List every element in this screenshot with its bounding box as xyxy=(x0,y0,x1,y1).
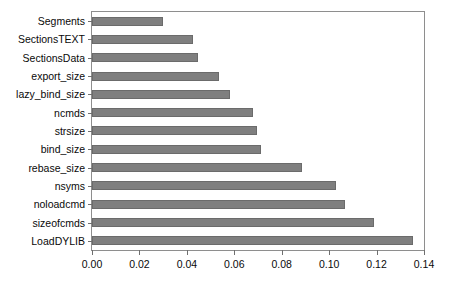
x-axis-tick xyxy=(329,250,330,255)
bar-row: strsize xyxy=(92,122,424,140)
bar-row: Segments xyxy=(92,12,424,30)
y-axis-label-ncmds: ncmds xyxy=(54,107,92,118)
x-axis-tick-label: 0.08 xyxy=(271,259,291,270)
bar-sizeofcmds xyxy=(92,218,374,227)
y-axis-label-sectionstext: SectionsTEXT xyxy=(18,34,92,45)
bar-export-size xyxy=(92,72,219,81)
x-axis-tick-label: 0.06 xyxy=(224,259,244,270)
bar-row: export_size xyxy=(92,67,424,85)
bar-nsyms xyxy=(92,181,336,190)
bar-ncmds xyxy=(92,108,253,117)
bar-row: bind_size xyxy=(92,140,424,158)
plot-area: SegmentsSectionsTEXTSectionsDataexport_s… xyxy=(91,11,425,251)
bar-row: LoadDYLIB xyxy=(92,232,424,250)
bar-row: SectionsTEXT xyxy=(92,30,424,48)
x-axis-tick xyxy=(234,250,235,255)
y-axis-label-strsize: strsize xyxy=(55,125,92,136)
bar-bind-size xyxy=(92,145,261,154)
x-axis-tick xyxy=(377,250,378,255)
x-axis-tick-label: 0.10 xyxy=(319,259,339,270)
bar-segments xyxy=(92,17,163,26)
y-axis-label-segments: Segments xyxy=(38,16,92,27)
x-axis-tick-label: 0.14 xyxy=(414,259,434,270)
bar-sectionstext xyxy=(92,35,193,44)
y-axis-label-export-size: export_size xyxy=(31,71,92,82)
x-axis-tick xyxy=(139,250,140,255)
x-axis-tick xyxy=(424,250,425,255)
x-axis-tick-label: 0.02 xyxy=(129,259,149,270)
y-axis-label-bind-size: bind_size xyxy=(41,144,92,155)
y-axis-label-sectionsdata: SectionsData xyxy=(23,52,92,63)
bar-row: lazy_bind_size xyxy=(92,85,424,103)
bar-loaddylib xyxy=(92,236,413,245)
x-axis-tick-label: 0.04 xyxy=(177,259,197,270)
bar-row: rebase_size xyxy=(92,158,424,176)
y-axis-label-lazy-bind-size: lazy_bind_size xyxy=(16,89,92,100)
x-axis-tick xyxy=(92,250,93,255)
bar-sectionsdata xyxy=(92,53,198,62)
bar-strsize xyxy=(92,126,257,135)
x-axis-tick-label: 0.12 xyxy=(366,259,386,270)
bar-chart: SegmentsSectionsTEXTSectionsDataexport_s… xyxy=(0,0,451,282)
bar-lazy-bind-size xyxy=(92,90,230,99)
y-axis-label-sizeofcmds: sizeofcmds xyxy=(32,217,92,228)
bar-rebase-size xyxy=(92,163,302,172)
x-axis-tick xyxy=(282,250,283,255)
y-axis-label-rebase-size: rebase_size xyxy=(28,162,92,173)
x-axis-tick-label: 0.00 xyxy=(82,259,102,270)
bar-row: ncmds xyxy=(92,104,424,122)
y-axis-label-nsyms: nsyms xyxy=(55,180,92,191)
x-axis-tick xyxy=(187,250,188,255)
bar-noloadcmd xyxy=(92,200,345,209)
bar-row: noloadcmd xyxy=(92,195,424,213)
y-axis-label-loaddylib: LoadDYLIB xyxy=(31,235,92,246)
bar-row: SectionsData xyxy=(92,49,424,67)
bar-row: sizeofcmds xyxy=(92,213,424,231)
y-axis-label-noloadcmd: noloadcmd xyxy=(34,199,92,210)
bar-row: nsyms xyxy=(92,177,424,195)
